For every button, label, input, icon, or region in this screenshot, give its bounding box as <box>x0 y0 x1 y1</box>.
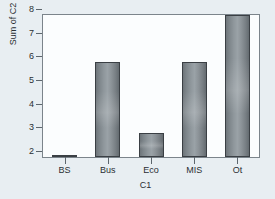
bar-ot <box>225 15 250 157</box>
y-axis-tick-label: 6 <box>20 51 34 61</box>
x-axis-tick-mark <box>237 157 238 164</box>
y-axis-tick-label: 3 <box>20 122 34 132</box>
x-axis-tick-label: Bus <box>85 165 131 176</box>
y-axis-tick-label: 7 <box>20 28 34 38</box>
bar-chart: Sum of C2 8765432 BSBusEcoMISOt C1 <box>0 0 275 199</box>
y-axis-tick-label: 4 <box>20 99 34 109</box>
x-axis-title: C1 <box>8 180 275 190</box>
bar-sheen <box>96 91 119 128</box>
x-axis-tick-mark <box>65 157 66 164</box>
bar-mis <box>182 62 207 157</box>
x-axis-tick-labels: BSBusEcoMISOt <box>43 165 259 179</box>
x-axis-tick-mark <box>108 157 109 164</box>
y-axis-tick-label: 8 <box>20 4 34 14</box>
bar-eco <box>139 133 164 157</box>
x-axis-tick-mark <box>194 157 195 164</box>
bar-sheen <box>183 91 206 128</box>
bars-container <box>43 15 259 157</box>
bar-bus <box>95 62 120 157</box>
bar-sheen <box>140 141 163 150</box>
bar-sheen <box>226 58 249 114</box>
x-axis-tick-label: BS <box>42 165 88 176</box>
y-axis-tick-labels: 8765432 <box>20 9 34 159</box>
x-axis-tick-mark <box>151 157 152 164</box>
y-axis-tick-label: 2 <box>20 146 34 156</box>
y-axis-tick-mark <box>36 9 42 10</box>
x-axis-tick-marks <box>43 157 259 164</box>
x-axis-tick-label: Eco <box>128 165 174 176</box>
x-axis-tick-label: Ot <box>214 165 260 176</box>
y-axis-title: Sum of C2 <box>8 0 20 64</box>
x-axis-tick-label: MIS <box>171 165 217 176</box>
y-axis-tick-label: 5 <box>20 75 34 85</box>
